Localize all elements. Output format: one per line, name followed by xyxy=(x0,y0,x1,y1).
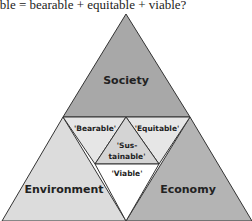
society-region xyxy=(63,14,190,117)
viable-label: 'Viable' xyxy=(112,169,143,178)
equitable-label: 'Equitable' xyxy=(135,124,180,133)
bearable-label: 'Bearable' xyxy=(74,124,116,133)
sustainable-label-line2: tainable' xyxy=(109,152,146,161)
sustainable-label-line1: 'Sus- xyxy=(117,141,138,150)
sustainability-triangle: Society Environment Economy 'Bearable' '… xyxy=(0,0,252,221)
society-label: Society xyxy=(103,74,149,87)
environment-label: Environment xyxy=(24,183,103,196)
economy-label: Economy xyxy=(160,183,216,196)
